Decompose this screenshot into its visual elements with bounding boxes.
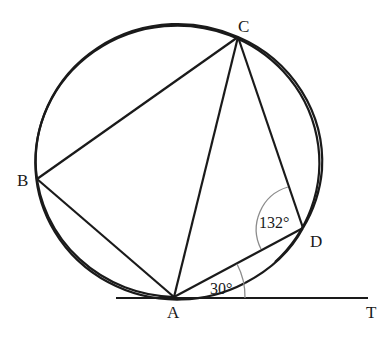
label-c: C	[238, 17, 249, 36]
label-b: B	[17, 171, 28, 190]
label-t: T	[366, 303, 377, 322]
label-d: D	[310, 232, 322, 251]
angle-label-cda: 132°	[259, 214, 289, 231]
geometry-diagram: C B A D T 132° 30°	[0, 0, 383, 346]
angle-label-dat: 30°	[210, 280, 232, 297]
segment-cd	[238, 37, 303, 228]
angle-arc-dat	[237, 264, 245, 298]
label-a: A	[167, 303, 180, 322]
